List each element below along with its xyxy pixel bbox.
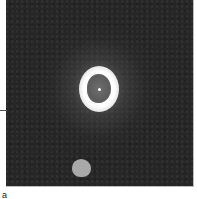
astronomical-image-panel bbox=[6, 0, 194, 187]
central-nucleus bbox=[98, 88, 101, 91]
panel-label: a bbox=[2, 191, 7, 199]
secondary-source bbox=[72, 159, 91, 177]
axis-tick-mark bbox=[0, 110, 7, 111]
